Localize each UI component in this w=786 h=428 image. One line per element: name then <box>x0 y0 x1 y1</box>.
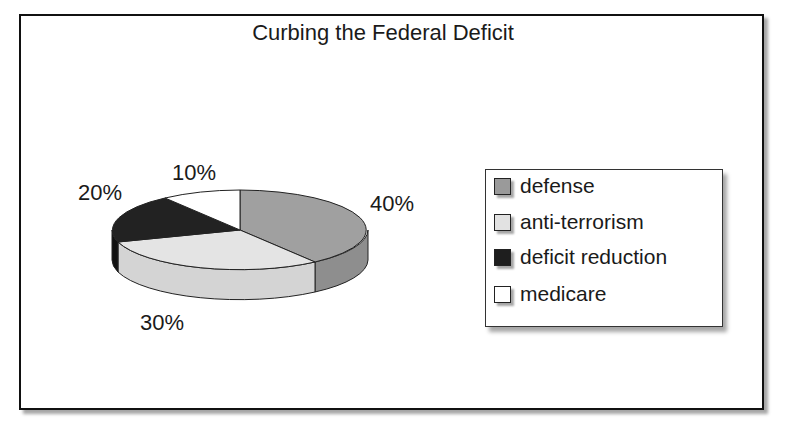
swatch-medicare-icon <box>494 286 511 303</box>
legend-item-medicare[interactable]: medicare <box>494 280 606 308</box>
chart-legend: defense anti-terrorism deficit reduction… <box>485 169 723 327</box>
legend-label: medicare <box>520 282 606 306</box>
swatch-defense-icon <box>494 178 511 195</box>
swatch-anti-terrorism-icon <box>494 214 511 231</box>
swatch-deficit-reduction-icon <box>494 249 511 266</box>
label-medicare-pct: 10% <box>172 160 216 186</box>
legend-item-anti-terrorism[interactable]: anti-terrorism <box>494 208 644 236</box>
legend-item-defense[interactable]: defense <box>494 172 595 200</box>
legend-item-deficit-reduction[interactable]: deficit reduction <box>494 243 667 271</box>
legend-label: defense <box>520 174 595 198</box>
label-deficit-reduction-pct: 20% <box>78 180 122 206</box>
legend-label: deficit reduction <box>520 245 667 269</box>
label-defense-pct: 40% <box>370 191 414 217</box>
label-anti-terrorism-pct: 30% <box>140 310 184 336</box>
legend-label: anti-terrorism <box>520 210 644 234</box>
